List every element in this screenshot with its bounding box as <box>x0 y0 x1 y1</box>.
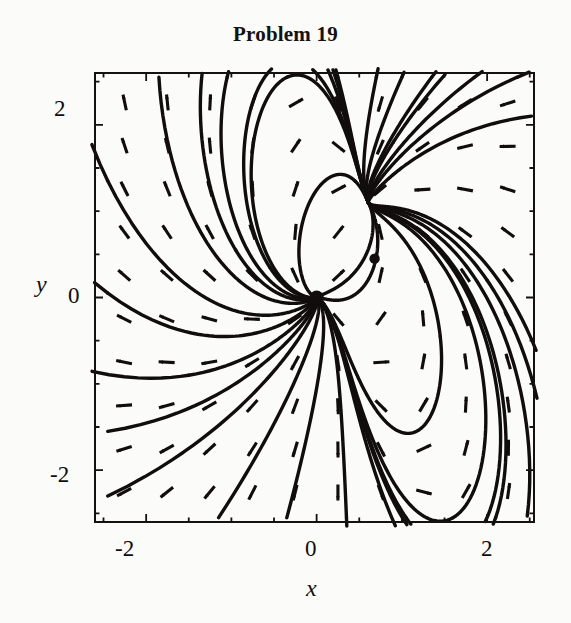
direction-field-arrow <box>208 94 212 110</box>
direction-field-arrow <box>463 354 467 370</box>
direction-field-arrow <box>414 188 430 192</box>
direction-field-arrow <box>459 228 472 237</box>
direction-field-arrow <box>292 399 298 414</box>
direction-field-arrow <box>332 142 345 152</box>
direction-field-arrow <box>379 267 383 283</box>
direction-field-arrow <box>248 443 257 457</box>
direction-field-arrow <box>204 444 216 455</box>
direction-field-arrow <box>373 360 389 364</box>
y-axis-title: y <box>36 271 47 298</box>
plot-area <box>0 0 571 623</box>
direction-field-arrow <box>291 139 300 152</box>
direction-field-arrow <box>205 486 215 498</box>
direction-field-arrow <box>159 316 174 322</box>
direction-field-arrow <box>506 397 510 413</box>
direction-field-arrow <box>291 356 299 370</box>
direction-field-arrow <box>244 317 260 321</box>
direction-field-arrow <box>500 186 515 191</box>
direction-field-arrow <box>117 315 131 322</box>
direction-field-arrow <box>292 442 297 457</box>
direction-field-arrow <box>333 270 345 281</box>
direction-field-arrow <box>121 182 128 196</box>
direction-field-arrow <box>118 270 130 281</box>
direction-field-arrow <box>116 404 132 408</box>
x-tick-label-minus2: -2 <box>115 536 134 562</box>
direction-field-arrow <box>202 402 216 410</box>
direction-field-arrow <box>293 181 298 196</box>
direction-field-arrow <box>294 224 298 240</box>
direction-field-arrow <box>500 145 516 149</box>
y-tick-label-0: 0 <box>68 283 80 309</box>
figure-page: Problem 19 2 0 -2 -2 0 2 y x <box>0 0 571 623</box>
solution-curve <box>92 371 189 378</box>
solution-curve <box>108 298 317 432</box>
direction-field-arrow <box>464 440 469 455</box>
direction-field-arrow <box>122 95 126 111</box>
direction-field-arrow <box>160 445 174 453</box>
direction-field-arrow <box>164 181 170 196</box>
direction-field-arrow <box>416 490 431 495</box>
direction-field-arrow <box>201 361 217 365</box>
direction-field-arrow <box>292 268 299 283</box>
direction-field-arrow <box>422 354 426 370</box>
solution-curve <box>317 298 496 525</box>
direction-field-arrow <box>417 445 431 452</box>
x-tick-label-2: 2 <box>481 536 493 562</box>
direction-field-arrow <box>159 360 175 364</box>
equilibrium-point <box>369 253 379 263</box>
y-tick-label-minus2: -2 <box>50 462 69 488</box>
direction-field-arrow <box>159 404 174 409</box>
direction-field-arrow <box>163 225 172 238</box>
direction-field-arrow <box>507 483 511 499</box>
direction-field-arrow <box>378 96 383 111</box>
direction-field-arrow <box>122 138 127 153</box>
direction-field-arrow <box>289 99 303 107</box>
direction-field-arrow <box>245 359 259 367</box>
direction-field-arrow <box>206 225 214 239</box>
direction-field-arrow <box>336 485 340 501</box>
direction-field-arrow <box>202 316 217 321</box>
direction-field-arrow <box>464 397 468 413</box>
direction-field-arrow <box>165 94 169 110</box>
direction-field-arrow <box>333 226 343 238</box>
direction-field-arrow <box>457 145 473 150</box>
y-tick-label-2: 2 <box>54 96 66 122</box>
direction-field-arrow <box>462 484 470 498</box>
equilibrium-point <box>310 291 324 305</box>
direction-field-arrow <box>421 310 425 326</box>
solution-curve <box>244 69 369 267</box>
solution-curve <box>317 298 347 518</box>
direction-field-arrow <box>116 446 131 451</box>
direction-field-arrow <box>500 101 515 106</box>
x-tick-label-0: 0 <box>305 536 317 562</box>
direction-field-arrow <box>161 487 173 497</box>
direction-field-arrow <box>208 138 212 154</box>
x-axis-title: x <box>306 575 317 602</box>
direction-field-arrow <box>501 227 514 237</box>
direction-field-arrow <box>116 360 132 364</box>
direction-field-arrow <box>249 485 256 499</box>
solution-curve <box>95 283 108 294</box>
direction-field-arrow <box>247 400 258 412</box>
solution-curve <box>251 77 316 298</box>
direction-field-arrow <box>457 187 473 191</box>
direction-field-arrow <box>420 398 428 412</box>
direction-field-arrow <box>376 312 385 325</box>
direction-field-arrow <box>332 185 346 193</box>
direction-field-arrow <box>120 226 130 239</box>
direction-field-arrow <box>336 441 340 457</box>
phase-portrait-svg <box>0 0 571 623</box>
direction-field-arrow <box>204 270 216 281</box>
direction-field-arrow <box>503 269 513 282</box>
